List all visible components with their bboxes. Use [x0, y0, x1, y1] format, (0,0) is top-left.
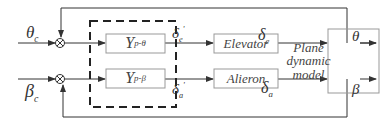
controller-beta-label: Yp-β	[106, 69, 165, 88]
delta-e-prime-label: δe'	[172, 26, 184, 44]
delta-a-label: δa	[261, 80, 273, 99]
theta-c-label: θc	[26, 24, 39, 45]
controller-theta-label: Yp-θ	[106, 34, 165, 53]
theta-output-label: θ	[352, 29, 359, 44]
beta-c-label: βc	[25, 82, 38, 104]
delta-e-label: δe	[258, 27, 269, 46]
plant-label: Plane dynamic model	[283, 29, 334, 93]
beta-output-label: β	[352, 82, 359, 97]
delta-a-prime-label: δa'	[172, 82, 185, 100]
